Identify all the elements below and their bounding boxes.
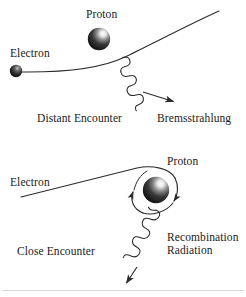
photon-wave-recombination [123, 207, 160, 283]
label-recombination-line2: Radiation [167, 244, 213, 256]
electron-trajectory-distant [20, 11, 219, 72]
capture-loop-left-arc [132, 192, 143, 213]
physics-diagram: Proton Electron Distant Encounter Bremss… [0, 0, 246, 297]
label-proton-close: Proton [167, 155, 198, 168]
proton-sphere-distant [88, 28, 110, 50]
label-electron-close: Electron [10, 176, 50, 189]
capture-loop-right-arc [174, 178, 178, 201]
proton-sphere-close [143, 177, 169, 203]
electron-sphere-distant [10, 65, 22, 77]
label-electron-distant: Electron [10, 47, 50, 60]
label-bremsstrahlung: Bremsstrahlung [157, 112, 231, 125]
capture-loop-lower-arc [143, 203, 173, 214]
caption-close-encounter: Close Encounter [17, 245, 95, 258]
caption-distant-encounter: Distant Encounter [37, 112, 122, 125]
label-recombination-line1: Recombination [167, 231, 239, 243]
label-recombination-radiation: Recombination Radiation [167, 231, 246, 257]
label-proton-distant: Proton [86, 8, 117, 21]
photon-wave-bremsstrahlung [121, 57, 174, 111]
